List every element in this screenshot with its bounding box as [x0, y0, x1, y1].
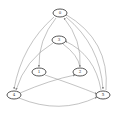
edge-5-3 — [65, 41, 101, 90]
node-label: 3 — [58, 37, 61, 42]
node-1[interactable]: 1 — [32, 68, 46, 76]
edge-3-4 — [16, 43, 53, 90]
node-label: 2 — [79, 69, 82, 74]
edge-0-5 — [66, 17, 103, 89]
edge-3-2 — [63, 44, 80, 67]
node-4[interactable]: 4 — [7, 91, 21, 99]
node-label: 1 — [38, 69, 41, 74]
graph-canvas: 0 3 1 2 4 5 — [0, 0, 119, 116]
edge-4-5 — [19, 97, 97, 106]
node-label: 4 — [13, 92, 16, 97]
node-0[interactable]: 0 — [53, 9, 67, 17]
node-label: 5 — [102, 92, 105, 97]
node-3[interactable]: 3 — [52, 36, 66, 44]
edge-4-2 — [20, 75, 75, 93]
edge-0-4 — [14, 17, 54, 89]
node-5[interactable]: 5 — [96, 91, 110, 99]
edge-5-0 — [65, 14, 106, 90]
edges — [14, 14, 106, 106]
node-2[interactable]: 2 — [73, 68, 87, 76]
edge-1-5 — [45, 75, 97, 94]
node-label: 0 — [59, 10, 62, 15]
